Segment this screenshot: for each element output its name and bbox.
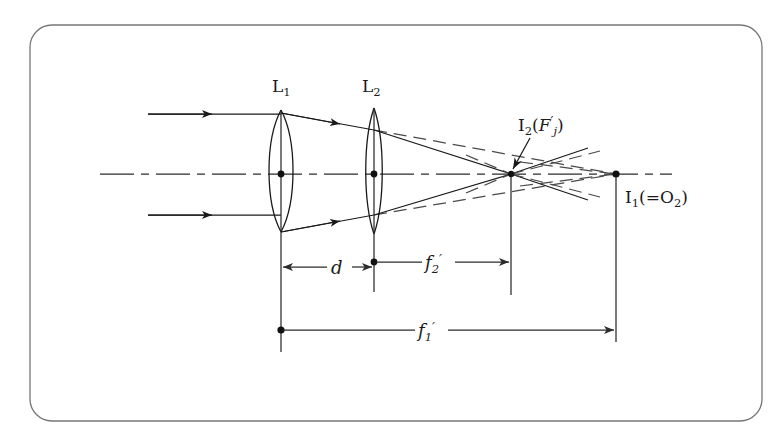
dot-L1-center xyxy=(278,171,285,178)
dashed-stub-upper-left xyxy=(466,155,511,174)
dimension-d-label: d xyxy=(331,257,343,278)
pointer-arrow-to-I2 xyxy=(513,138,530,169)
dot-L2-center xyxy=(371,171,378,178)
rounded-border xyxy=(30,25,762,421)
ray-L1-to-L2-upper-arrow xyxy=(281,113,340,124)
ray-diagram-canvas: L1 L2 I2(F′j) I1(=O2) d f2′ f1′ xyxy=(0,0,781,434)
dot-image-I1 xyxy=(612,170,619,177)
lens-L1-left-surface xyxy=(269,110,281,232)
label-image-I2: I2(F′j) xyxy=(518,114,564,138)
label-image-I1: I1(=O2) xyxy=(625,187,688,210)
label-lens-L1: L1 xyxy=(272,76,291,99)
ray-after-focus-down xyxy=(511,174,588,200)
ray-L2-to-focus-upper xyxy=(374,130,511,174)
dimension-f2-label: f2′ xyxy=(423,252,442,276)
figure-container: L1 L2 I2(F′j) I1(=O2) d f2′ f1′ xyxy=(0,0,781,434)
dashed-stub-lower-left xyxy=(466,174,511,193)
dimension-f1-label: f1′ xyxy=(416,320,435,344)
ray-L2-to-focus-lower xyxy=(374,174,511,215)
ray-L1-to-L2-lower-arrow xyxy=(281,221,340,232)
label-lens-L2: L2 xyxy=(362,76,381,99)
dot-focus-I2 xyxy=(508,171,514,177)
lens-L1-right-surface xyxy=(281,110,293,232)
